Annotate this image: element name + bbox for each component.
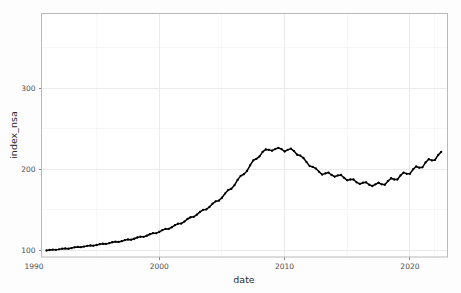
data-point bbox=[168, 228, 170, 230]
data-point bbox=[236, 179, 238, 181]
data-point bbox=[262, 151, 264, 153]
data-point bbox=[356, 181, 358, 183]
y-tick-label: 200 bbox=[21, 165, 36, 174]
data-point bbox=[136, 236, 138, 238]
data-point bbox=[252, 159, 254, 161]
data-point bbox=[421, 166, 423, 168]
data-point bbox=[64, 247, 66, 249]
data-point bbox=[305, 161, 307, 163]
data-point bbox=[377, 182, 379, 184]
data-point bbox=[374, 183, 376, 185]
data-point bbox=[381, 183, 383, 185]
data-point bbox=[230, 188, 232, 190]
data-point bbox=[227, 189, 229, 191]
data-point bbox=[309, 165, 311, 167]
data-point bbox=[161, 229, 163, 231]
data-point bbox=[189, 216, 191, 218]
data-point bbox=[193, 216, 195, 218]
x-tick-label: 2010 bbox=[275, 262, 294, 271]
data-point bbox=[255, 158, 257, 160]
data-point bbox=[271, 150, 273, 152]
data-point bbox=[83, 245, 85, 247]
data-point bbox=[340, 174, 342, 176]
data-point bbox=[293, 150, 295, 152]
data-point bbox=[117, 241, 119, 243]
data-point bbox=[205, 208, 207, 210]
data-point bbox=[158, 231, 160, 233]
data-point bbox=[327, 171, 329, 173]
data-point bbox=[437, 154, 439, 156]
data-point bbox=[415, 165, 417, 167]
data-point bbox=[80, 246, 82, 248]
line-chart: 1990200020102020 100200300 date index_ns… bbox=[0, 0, 461, 293]
x-tick-label: 2020 bbox=[400, 262, 419, 271]
data-point bbox=[334, 175, 336, 177]
y-axis-title: index_nsa bbox=[8, 111, 19, 159]
data-point bbox=[74, 246, 76, 248]
data-point bbox=[330, 174, 332, 176]
data-point bbox=[318, 171, 320, 173]
data-point bbox=[67, 247, 69, 249]
data-point bbox=[393, 178, 395, 180]
x-tick-label: 2000 bbox=[150, 262, 169, 271]
data-point bbox=[61, 248, 63, 250]
data-point bbox=[396, 178, 398, 180]
data-point bbox=[434, 159, 436, 161]
data-point bbox=[343, 177, 345, 179]
data-point bbox=[243, 173, 245, 175]
data-point bbox=[121, 240, 123, 242]
data-point bbox=[92, 244, 94, 246]
data-point bbox=[149, 233, 151, 235]
data-point bbox=[102, 243, 104, 245]
data-point bbox=[77, 246, 79, 248]
data-point bbox=[146, 235, 148, 237]
data-point bbox=[337, 174, 339, 176]
data-point bbox=[402, 171, 404, 173]
data-point bbox=[418, 167, 420, 169]
data-point bbox=[240, 175, 242, 177]
data-point bbox=[302, 157, 304, 159]
data-point bbox=[287, 149, 289, 151]
data-point bbox=[299, 154, 301, 156]
data-point bbox=[45, 249, 47, 251]
data-point bbox=[312, 166, 314, 168]
plot-panel-background bbox=[42, 14, 448, 258]
data-point bbox=[105, 243, 107, 245]
data-point bbox=[99, 243, 101, 245]
data-point bbox=[362, 182, 364, 184]
data-point bbox=[86, 245, 88, 247]
data-point bbox=[215, 200, 217, 202]
data-point bbox=[440, 151, 442, 153]
data-point bbox=[384, 184, 386, 186]
data-point bbox=[412, 168, 414, 170]
data-point bbox=[365, 181, 367, 183]
data-point bbox=[221, 197, 223, 199]
x-axis-title: date bbox=[233, 274, 255, 285]
data-point bbox=[387, 180, 389, 182]
data-point bbox=[95, 244, 97, 246]
data-point bbox=[296, 154, 298, 156]
data-point bbox=[108, 242, 110, 244]
data-point bbox=[52, 249, 54, 251]
data-point bbox=[208, 206, 210, 208]
data-point bbox=[268, 149, 270, 151]
data-point bbox=[199, 211, 201, 213]
chart-figure: 1990200020102020 100200300 date index_ns… bbox=[0, 0, 461, 293]
data-point bbox=[211, 203, 213, 205]
data-point bbox=[142, 236, 144, 238]
data-point bbox=[315, 167, 317, 169]
data-point bbox=[174, 224, 176, 226]
data-point bbox=[130, 239, 132, 241]
data-point bbox=[133, 238, 135, 240]
data-point bbox=[352, 178, 354, 180]
data-point bbox=[177, 223, 179, 225]
data-point bbox=[283, 150, 285, 152]
y-tick-label: 300 bbox=[21, 84, 36, 93]
data-point bbox=[346, 179, 348, 181]
data-point bbox=[390, 177, 392, 179]
data-point bbox=[127, 238, 129, 240]
data-point bbox=[280, 148, 282, 150]
data-point bbox=[114, 241, 116, 243]
data-point bbox=[249, 164, 251, 166]
data-point bbox=[111, 241, 113, 243]
